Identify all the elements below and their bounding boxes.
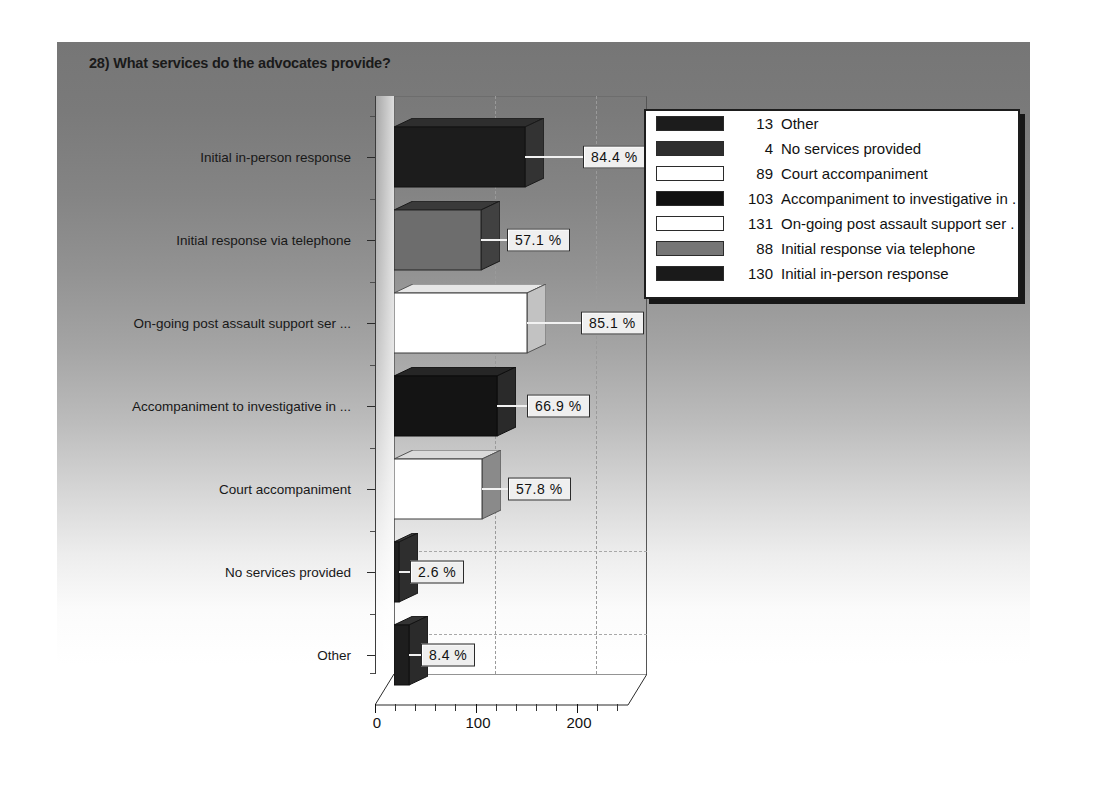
x-tick-m8 <box>556 704 557 711</box>
cat-minor-tick-5 <box>370 448 375 449</box>
x-tick-m4 <box>455 704 456 711</box>
legend-label-other: Other <box>781 115 819 132</box>
category-label-no-services-provided: No services provided <box>225 565 351 580</box>
cat-minor-tick-4 <box>370 365 375 366</box>
value-label-7: 8.4 % <box>421 644 475 667</box>
value-label-5: 57.8 % <box>508 478 571 501</box>
legend-count-initial-in-person-response: 130 <box>733 265 773 282</box>
x-tick-m2 <box>415 704 416 711</box>
x-tick-100 <box>476 704 477 713</box>
legend-count-no-services-provided: 4 <box>733 140 773 157</box>
legend-swatch-on-going-post-assault-support <box>656 216 724 231</box>
x-tick-m9 <box>597 704 598 711</box>
legend-swatch-accompaniment-to-investigative <box>656 191 724 206</box>
x-tick-m10 <box>617 704 618 711</box>
cat-tick-5 <box>367 489 375 490</box>
cat-minor-tick-3 <box>370 282 375 283</box>
legend-item-other[interactable]: 13 Other <box>646 111 1018 136</box>
category-label-accompaniment-to-investigative: Accompaniment to investigative in ... <box>132 399 351 414</box>
legend-label-initial-response-via-telephone: Initial response via telephone <box>781 240 975 257</box>
gridline-cat7 <box>394 634 647 635</box>
leader-1 <box>525 156 587 158</box>
legend-item-on-going-post-assault-support[interactable]: 131 On-going post assault support ser . <box>646 211 1018 236</box>
x-tick-m6 <box>516 704 517 711</box>
category-label-initial-response-via-telephone: Initial response via telephone <box>176 233 351 248</box>
legend-swatch-court-accompaniment <box>656 166 724 181</box>
category-label-other: Other <box>317 648 351 663</box>
gridline-x200 <box>596 96 597 674</box>
leader-4 <box>497 405 531 407</box>
legend-item-accompaniment-to-investigative[interactable]: 103 Accompaniment to investigative in . <box>646 186 1018 211</box>
cat-tick-7 <box>367 655 375 656</box>
cat-tick-4 <box>367 406 375 407</box>
legend-item-initial-in-person-response[interactable]: 130 Initial in-person response <box>646 261 1018 286</box>
value-label-3: 85.1 % <box>581 312 644 335</box>
x-tick-label-0: 0 <box>373 714 381 731</box>
legend-swatch-no-services-provided <box>656 141 724 156</box>
legend-item-no-services-provided[interactable]: 4 No services provided <box>646 136 1018 161</box>
legend-count-court-accompaniment: 89 <box>733 165 773 182</box>
x-axis: 0 100 200 <box>375 704 665 754</box>
x-tick-m1 <box>395 704 396 711</box>
x-tick-label-100: 100 <box>465 714 490 731</box>
legend-label-on-going-post-assault-support: On-going post assault support ser . <box>781 215 1014 232</box>
legend-count-on-going-post-assault-support: 131 <box>733 215 773 232</box>
x-tick-200 <box>577 704 578 713</box>
legend-swatch-initial-in-person-response <box>656 266 724 281</box>
plot-area: 84.4 % 57.1 % 85.1 % 66.9 % 57.8 % 2.6 %… <box>375 96 647 704</box>
value-label-1: 84.4 % <box>583 146 646 169</box>
x-tick-m3 <box>435 704 436 711</box>
value-label-6: 2.6 % <box>410 561 464 584</box>
chart-title: 28) What services do the advocates provi… <box>89 55 391 71</box>
cat-minor-tick-6 <box>370 531 375 532</box>
x-tick-label-200: 200 <box>566 714 591 731</box>
value-label-4: 66.9 % <box>527 395 590 418</box>
cat-tick-6 <box>367 572 375 573</box>
x-tick-m5 <box>496 704 497 711</box>
cat-tick-1 <box>367 157 375 158</box>
chart-panel: 28) What services do the advocates provi… <box>57 42 1030 734</box>
legend[interactable]: 13 Other 4 No services provided 89 Court… <box>644 109 1020 299</box>
legend-swatch-initial-response-via-telephone <box>656 241 724 256</box>
legend-count-other: 13 <box>733 115 773 132</box>
legend-count-accompaniment-to-investigative: 103 <box>733 190 773 207</box>
bar-on-going-post-assault-support[interactable] <box>394 284 546 362</box>
cat-minor-tick-8 <box>370 673 375 674</box>
chart-page: 28) What services do the advocates provi… <box>0 0 1113 793</box>
legend-count-initial-response-via-telephone: 88 <box>733 240 773 257</box>
legend-label-court-accompaniment: Court accompaniment <box>781 165 928 182</box>
cat-tick-3 <box>367 323 375 324</box>
cat-minor-tick-2 <box>370 199 375 200</box>
legend-item-initial-response-via-telephone[interactable]: 88 Initial response via telephone <box>646 236 1018 261</box>
cat-minor-tick-1 <box>370 116 375 117</box>
leader-3 <box>527 322 585 324</box>
gridline-cat6 <box>394 551 647 552</box>
value-label-2: 57.1 % <box>507 229 570 252</box>
cat-tick-2 <box>367 240 375 241</box>
legend-swatch-other <box>656 116 724 131</box>
category-label-court-accompaniment: Court accompaniment <box>219 482 351 497</box>
bar-initial-in-person-response[interactable] <box>394 118 544 196</box>
legend-label-accompaniment-to-investigative: Accompaniment to investigative in . <box>781 190 1016 207</box>
category-axis-labels: Initial in-person response Initial respo… <box>57 96 365 704</box>
plot-left-wall <box>375 96 395 674</box>
x-tick-0 <box>375 704 376 713</box>
legend-label-no-services-provided: No services provided <box>781 140 921 157</box>
x-tick-m7 <box>536 704 537 711</box>
cat-minor-tick-7 <box>370 614 375 615</box>
category-label-on-going-post-assault-support: On-going post assault support ser ... <box>133 316 351 331</box>
legend-label-initial-in-person-response: Initial in-person response <box>781 265 949 282</box>
category-label-initial-in-person-response: Initial in-person response <box>200 150 351 165</box>
legend-item-court-accompaniment[interactable]: 89 Court accompaniment <box>646 161 1018 186</box>
